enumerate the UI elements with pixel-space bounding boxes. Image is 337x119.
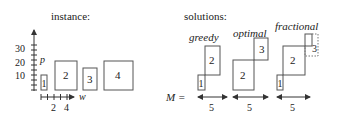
x-axis: 2 4 w [41,91,86,113]
instance-title: instance: [51,10,90,22]
x-tick-2: 2 [51,102,56,113]
svg-text:1: 1 [278,78,283,89]
svg-text:2: 2 [240,69,246,81]
capacity-label: M = [165,91,185,103]
x-tick-4: 4 [64,102,69,113]
solution-greedy: greedy 1 2 5 [189,31,227,113]
instance-item-3: 3 [83,68,97,90]
y-tick-10: 10 [15,70,25,81]
instance-item-4: 4 [104,61,133,90]
svg-text:3: 3 [312,43,317,54]
knapsack-diagram: instance: 10 20 30 p 2 [0,0,337,119]
svg-text:3: 3 [259,43,265,55]
instance-item-2: 2 [55,61,77,90]
x-axis-label: w [79,91,86,102]
svg-text:2: 2 [209,54,215,66]
instance-panel: instance: 10 20 30 p 2 [15,10,133,113]
fractional-capacity: 5 [290,102,295,113]
greedy-capacity: 5 [209,102,214,113]
instance-item-1: 1 [41,75,47,90]
solutions-panel: solutions: greedy 1 2 5 optimal 2 3 5 fr… [165,10,318,113]
solution-optimal: optimal 2 3 5 [233,27,268,113]
svg-text:4: 4 [115,69,121,81]
svg-text:2: 2 [63,69,69,81]
solutions-title: solutions: [184,10,227,22]
greedy-label: greedy [189,31,219,43]
optimal-capacity: 5 [247,102,252,113]
y-tick-20: 20 [15,57,25,68]
optimal-label: optimal [233,27,267,39]
y-tick-30: 30 [15,43,25,54]
svg-text:3: 3 [87,73,93,85]
fractional-label: fractional [275,20,318,32]
y-axis-label: p [39,54,45,65]
svg-text:1: 1 [199,78,204,89]
solution-fractional: fractional 1 2 3 5 [275,20,318,113]
svg-text:1: 1 [42,78,47,89]
svg-text:2: 2 [290,54,296,66]
